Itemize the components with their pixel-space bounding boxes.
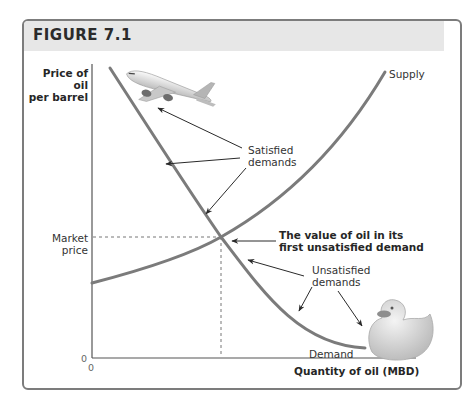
y-axis-label: Price of oil per barrel — [26, 67, 88, 103]
arrow-to-demand-upper — [166, 158, 240, 164]
x-origin-label: 0 — [88, 362, 94, 374]
arrow-to-airplane — [158, 108, 242, 148]
axes — [92, 64, 416, 358]
market-price-label: Market price — [40, 232, 88, 256]
value-line1: The value of oil in its — [279, 229, 424, 241]
unsatisfied-line1: Unsatisfied — [312, 264, 371, 276]
x-axis-label: Quantity of oil (MBD) — [294, 365, 419, 377]
arrow-to-demand-lower-1 — [248, 260, 304, 276]
demand-curve — [110, 68, 365, 348]
y-axis-label-line2: per barrel — [26, 91, 88, 103]
demand-label: Demand — [309, 348, 354, 360]
y-origin-label: 0 — [81, 353, 87, 365]
supply-label: Supply — [389, 68, 425, 80]
annotation-arrows — [158, 108, 362, 326]
rubber-duck-image — [369, 300, 433, 360]
satisfied-demands-label: Satisfied demands — [248, 144, 297, 168]
unsatisfied-demands-label: Unsatisfied demands — [312, 264, 371, 288]
arrow-to-demand-near-equilibrium — [206, 168, 246, 214]
market-price-label-line1: Market — [40, 232, 88, 244]
market-price-label-line2: price — [40, 244, 88, 256]
y-axis-label-line1: Price of oil — [26, 67, 88, 91]
unsatisfied-line2: demands — [312, 276, 371, 288]
satisfied-line1: Satisfied — [248, 144, 297, 156]
satisfied-line2: demands — [248, 156, 297, 168]
arrow-to-demand-lower-2 — [299, 287, 312, 311]
first-unsatisfied-value-label: The value of oil in its first unsatisfie… — [279, 229, 424, 253]
arrow-to-duck — [338, 291, 362, 326]
value-line2: first unsatisfied demand — [279, 241, 424, 253]
